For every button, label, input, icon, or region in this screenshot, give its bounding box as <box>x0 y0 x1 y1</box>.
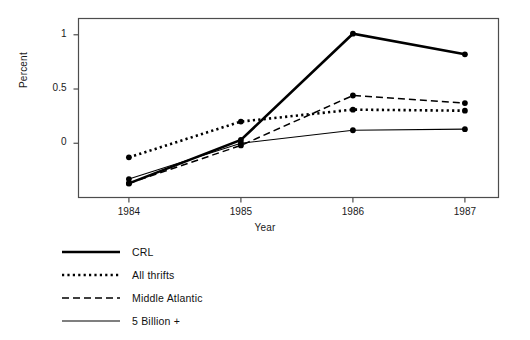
series-line <box>129 34 465 184</box>
legend-item: 5 Billion + <box>60 309 360 332</box>
x-tick-label: 1985 <box>211 206 271 217</box>
plot-frame <box>79 19 499 198</box>
data-point-marker <box>238 119 244 125</box>
series-5-billion <box>126 126 468 182</box>
x-axis-title: Year <box>0 222 530 233</box>
legend-label: 5 Billion + <box>132 315 180 327</box>
data-point-marker <box>462 51 468 57</box>
chart-legend: CRLAll thriftsMiddle Atlantic5 Billion + <box>60 240 360 332</box>
data-point-marker <box>462 108 468 114</box>
series-crl <box>126 31 468 187</box>
x-tick-label: 1987 <box>435 206 495 217</box>
data-point-marker <box>350 93 356 99</box>
series-line <box>129 96 465 184</box>
data-point-marker <box>350 127 356 133</box>
y-axis-ticks <box>74 35 79 143</box>
line-chart: Percent Year 00.51 1984198519861987 CRLA… <box>0 0 530 340</box>
legend-line-swatch <box>60 245 122 259</box>
data-point-marker <box>462 100 468 106</box>
legend-line-swatch <box>60 314 122 328</box>
x-axis-ticks <box>129 198 465 203</box>
legend-label: CRL <box>132 246 154 258</box>
data-point-marker <box>126 154 132 160</box>
series-all-thrifts <box>126 107 468 161</box>
legend-item: All thrifts <box>60 263 360 286</box>
series-middle-atlantic <box>126 93 468 187</box>
x-tick-label: 1984 <box>99 206 159 217</box>
data-point-marker <box>350 107 356 113</box>
data-point-marker <box>126 176 132 182</box>
y-tick-label: 0 <box>27 136 67 147</box>
data-point-marker <box>238 140 244 146</box>
legend-item: Middle Atlantic <box>60 286 360 309</box>
data-point-marker <box>462 126 468 132</box>
legend-line-swatch <box>60 291 122 305</box>
data-series-group <box>126 31 468 187</box>
legend-item: CRL <box>60 240 360 263</box>
legend-line-swatch <box>60 268 122 282</box>
x-tick-label: 1986 <box>323 206 383 217</box>
y-tick-label: 0.5 <box>27 82 67 93</box>
data-point-marker <box>350 31 356 37</box>
series-line <box>129 129 465 179</box>
series-line <box>129 110 465 158</box>
legend-label: Middle Atlantic <box>132 292 203 304</box>
y-tick-label: 1 <box>27 28 67 39</box>
legend-label: All thrifts <box>132 269 174 281</box>
